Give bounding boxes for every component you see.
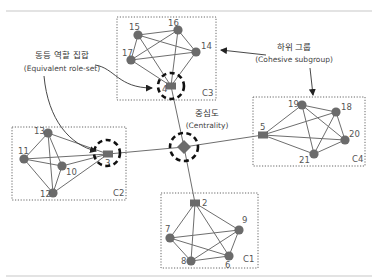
node-5: 5	[258, 122, 268, 139]
edge-19-18	[302, 105, 336, 112]
node-2: 2	[190, 198, 207, 208]
node-label: 18	[341, 102, 352, 112]
node-label: 15	[129, 22, 140, 32]
node-label: 10	[66, 167, 77, 177]
node-label: 6	[225, 260, 230, 270]
equivalent-role-set-label-en: (Equivalent role-set)	[24, 64, 100, 73]
arrow-to-c4	[310, 68, 313, 95]
node-circle-icon	[165, 233, 174, 242]
node-circle-icon	[234, 225, 243, 234]
edge-2-7	[170, 203, 195, 238]
node-circle-icon	[309, 149, 318, 158]
node-6: 6	[224, 251, 233, 270]
node-9: 9	[234, 215, 247, 235]
node-label: 9	[242, 215, 247, 225]
node-label: 4	[162, 84, 167, 94]
cohesive-subgroup-label-ko: 하위 그룹	[277, 42, 312, 52]
node-center	[177, 140, 191, 154]
node-19: 19	[288, 99, 307, 110]
node-20: 20	[340, 129, 359, 145]
cluster-label: C2	[113, 188, 124, 198]
equivalent-role-set-label-ko: 동등 역할 집합	[35, 50, 88, 60]
edge-19-21	[302, 105, 314, 154]
node-label: 2	[202, 198, 207, 208]
network-diagram: C1C2C3C4 2978613111012315161417451918202…	[0, 0, 379, 279]
edge-center-2	[184, 147, 195, 203]
node-label: 5	[260, 122, 265, 132]
cluster-label: C4	[352, 154, 363, 164]
node-circle-icon	[186, 256, 195, 265]
edge-5-19	[263, 105, 302, 135]
node-label: 11	[18, 146, 29, 156]
arrow-to-c3	[221, 50, 266, 55]
node-square-icon	[166, 83, 176, 90]
node-label: 16	[168, 18, 179, 28]
node-11: 11	[18, 146, 29, 164]
node-label: 21	[299, 155, 310, 165]
node-14: 14	[191, 41, 211, 57]
node-diamond-icon	[177, 140, 191, 154]
annotation-centrality: 중심도 (Centrality)	[186, 108, 229, 130]
node-label: 8	[181, 256, 186, 266]
edge-15-4	[138, 35, 171, 86]
node-label: 17	[122, 48, 133, 58]
node-square-icon	[190, 200, 200, 207]
node-12: 12	[40, 188, 58, 199]
edge-17-4	[131, 60, 171, 86]
node-circle-icon	[191, 47, 200, 56]
edge-12-3	[53, 154, 108, 193]
node-label: 12	[40, 189, 51, 199]
cluster-label: C1	[243, 254, 254, 264]
node-4: 4	[162, 83, 176, 95]
node-10: 10	[57, 161, 76, 177]
node-8: 8	[181, 256, 196, 266]
edge-2-8	[191, 203, 195, 261]
node-18: 18	[331, 102, 351, 117]
annotation-cohesive-subgroup: 하위 그룹 (Cohesive subgroup)	[221, 42, 333, 95]
node-label: 7	[165, 224, 170, 234]
centrality-label-ko: 중심도	[195, 108, 219, 118]
node-square-icon	[258, 132, 268, 139]
node-label: 14	[201, 41, 212, 51]
node-label: 20	[349, 129, 360, 139]
cluster-label: C3	[202, 88, 213, 98]
node-15: 15	[129, 22, 143, 40]
arrow-to-node-3	[44, 76, 96, 151]
edge-20-21	[314, 140, 345, 154]
edge-11-12	[24, 159, 53, 193]
node-13: 13	[34, 126, 53, 138]
edge-2-6	[195, 203, 229, 256]
node-circle-icon	[331, 107, 340, 116]
cohesive-subgroup-label-en: (Cohesive subgroup)	[255, 55, 333, 64]
centrality-label-en: (Centrality)	[186, 121, 229, 130]
node-16: 16	[168, 18, 183, 35]
node-label: 13	[34, 126, 45, 136]
node-label: 19	[288, 99, 299, 109]
node-square-icon	[103, 151, 113, 158]
